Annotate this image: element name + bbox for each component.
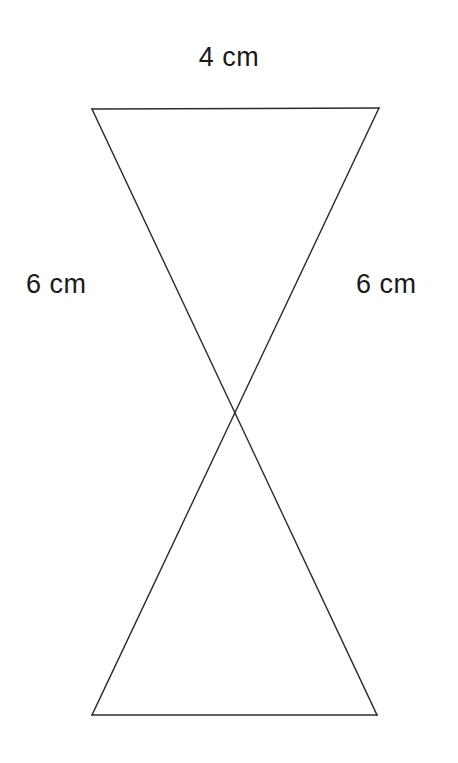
dimension-label-right: 6 cm	[356, 271, 417, 298]
geometry-figure-page: 4 cm 6 cm 6 cm	[0, 0, 458, 763]
dimension-label-left: 6 cm	[26, 271, 87, 298]
top-edge-line	[92, 108, 379, 109]
dimension-label-top: 4 cm	[0, 44, 458, 71]
bowtie-figure-svg	[0, 0, 458, 763]
